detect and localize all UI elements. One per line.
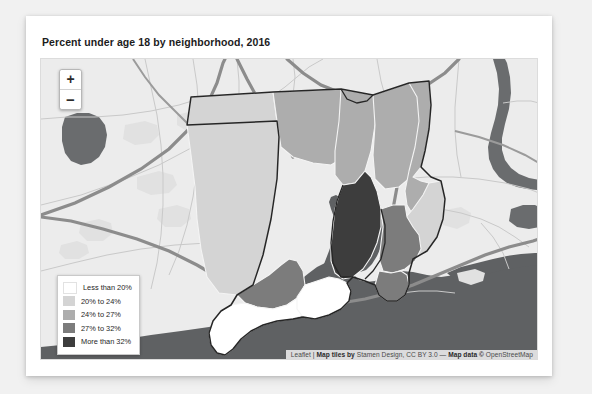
legend-swatch [63,282,77,294]
legend-item: Less than 20% [63,281,132,295]
legend-item: 24% to 27% [63,308,132,322]
zoom-in-button[interactable]: + [60,70,81,90]
map-card: Percent under age 18 by neighborhood, 20… [26,16,552,376]
attrib-data-prefix: Map data © [448,351,484,358]
page-title: Percent under age 18 by neighborhood, 20… [42,36,270,48]
legend-label: 24% to 27% [81,311,121,318]
leaflet-map[interactable]: + − Less than 20% 20% to 24% 24% to 27% [40,58,538,360]
legend-label: More than 32% [81,338,131,345]
legend-label: 27% to 32% [81,325,121,332]
legend-item: More than 32% [63,335,132,349]
zoom-control[interactable]: + − [59,69,82,110]
openstreetmap-link[interactable]: OpenStreetMap [486,351,533,358]
attrib-tiles-prefix: Map tiles by [316,351,354,358]
legend-swatch [63,310,75,320]
attrib-dash: — [440,351,447,358]
leaflet-link[interactable]: Leaflet [291,351,311,358]
legend-swatch [63,337,75,347]
page-root: Percent under age 18 by neighborhood, 20… [0,0,592,394]
map-legend: Less than 20% 20% to 24% 24% to 27% 27% … [57,275,140,355]
map-attribution: Leaflet | Map tiles by Stamen Design, CC… [286,350,537,359]
stamen-link[interactable]: Stamen Design, CC BY 3.0 [357,351,438,358]
attrib-sep: | [313,351,315,358]
legend-swatch [63,296,75,306]
zoom-out-button[interactable]: − [60,90,81,109]
legend-item: 27% to 32% [63,322,132,336]
legend-label: Less than 20% [83,284,132,291]
legend-swatch [63,323,75,333]
legend-item: 20% to 24% [63,295,132,309]
legend-label: 20% to 24% [81,298,121,305]
